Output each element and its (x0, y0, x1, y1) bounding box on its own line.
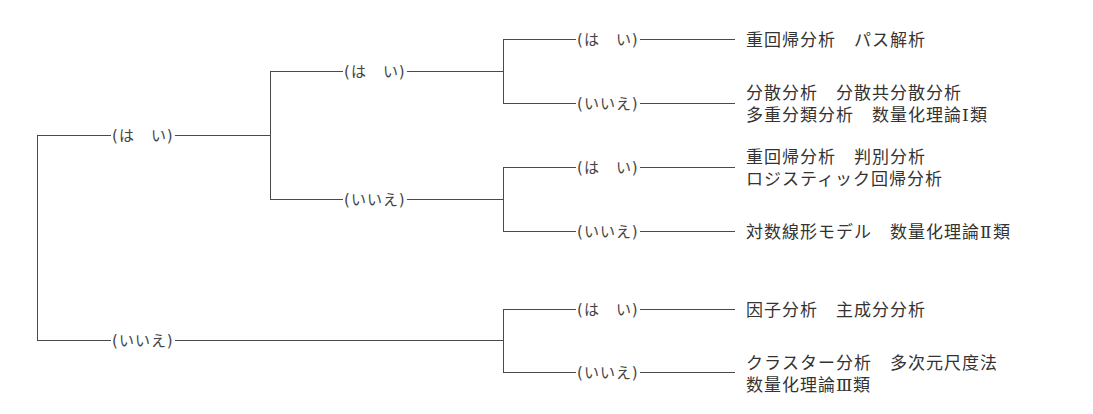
level2-yes-label: (は い) (343, 63, 407, 81)
leaf-edge-label-2: (は い) (576, 159, 640, 177)
leaf-edge-label-5: (いいえ) (576, 364, 640, 382)
leaf-node-3: 対数線形モデル 数量化理論Ⅱ類 (746, 221, 1011, 243)
leaf-text: ロジスティック回帰分析 (746, 168, 943, 190)
leaf-node-2: 重回帰分析 判別分析 ロジスティック回帰分析 (746, 146, 943, 190)
leaf-text: 重回帰分析 判別分析 (746, 146, 943, 168)
leaf-text: 因子分析 主成分分析 (746, 299, 926, 321)
level2-no-label: (いいえ) (343, 191, 407, 209)
leaf-bracket-1 (503, 40, 504, 104)
leaf-node-4: 因子分析 主成分分析 (746, 299, 926, 321)
leaf-edge-label-0: (は い) (576, 31, 640, 49)
leaf-node-1: 分散分析 分散共分散分析 多重分類分析 数量化理論Ⅰ類 (746, 82, 988, 126)
leaf-edge-label-4: (は い) (576, 301, 640, 319)
leaf-text: 多重分類分析 数量化理論Ⅰ類 (746, 104, 988, 126)
leaf-bracket-3 (503, 310, 504, 373)
leaf-text: 分散分析 分散共分散分析 (746, 82, 988, 104)
leaf-text: 数量化理論Ⅲ類 (746, 374, 998, 396)
root-no-branch (37, 340, 504, 341)
root-yes-label: (は い) (111, 127, 175, 145)
leaf-edge-label-3: (いいえ) (576, 223, 640, 241)
leaf-edge-label-1: (いいえ) (576, 95, 640, 113)
leaf-text: クラスター分析 多次元尺度法 (746, 352, 998, 374)
leaf-node-5: クラスター分析 多次元尺度法 数量化理論Ⅲ類 (746, 352, 998, 396)
leaf-text: 対数線形モデル 数量化理論Ⅱ類 (746, 221, 1011, 243)
level2-connector (270, 72, 271, 200)
root-connector (37, 136, 38, 341)
leaf-bracket-2 (503, 168, 504, 232)
leaf-node-0: 重回帰分析 パス解析 (746, 29, 926, 51)
root-no-label: (いいえ) (111, 332, 175, 350)
leaf-text: 重回帰分析 パス解析 (746, 29, 926, 51)
